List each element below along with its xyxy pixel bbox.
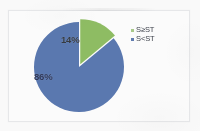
- pie-chart-plot-area: 14% 86% S≥ST S<ST: [9, 11, 189, 121]
- scanned-page: 14% 86% S≥ST S<ST: [0, 0, 200, 131]
- legend-item-lt[interactable]: S<ST: [131, 35, 185, 43]
- chart-legend: S≥ST S<ST: [131, 26, 185, 44]
- chart-frame: 14% 86% S≥ST S<ST: [8, 10, 190, 122]
- pie-slice-label-green: 14%: [61, 34, 79, 45]
- pie-slice-label-blue: 86%: [34, 71, 52, 82]
- legend-label-ge: S≥ST: [136, 26, 154, 34]
- legend-item-ge[interactable]: S≥ST: [131, 26, 185, 34]
- legend-label-lt: S<ST: [136, 35, 155, 43]
- square-marker-green-icon: [131, 29, 134, 32]
- square-marker-blue-icon: [131, 38, 134, 41]
